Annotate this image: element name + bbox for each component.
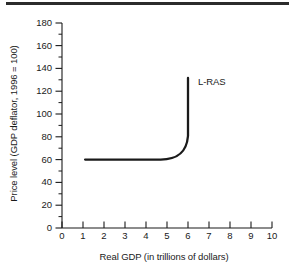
- ytick-label-80: 80: [22, 132, 52, 142]
- xtick-label-1: 1: [73, 231, 93, 241]
- xtick-label-8: 8: [220, 231, 240, 241]
- ytick-label-100: 100: [22, 109, 52, 119]
- xtick-label-4: 4: [136, 231, 156, 241]
- xtick-label-10: 10: [262, 231, 282, 241]
- figure-container: 180 160 140 120 100 80 60 40 20 0 0 1 2 …: [0, 0, 295, 269]
- ytick-label-0: 0: [22, 223, 52, 233]
- ytick-label-180: 180: [22, 18, 52, 28]
- xtick-label-3: 3: [115, 231, 135, 241]
- y-axis-title: Price level (GDP deflator, 1996 = 100): [8, 19, 19, 229]
- xtick-label-7: 7: [199, 231, 219, 241]
- ytick-label-120: 120: [22, 86, 52, 96]
- ytick-label-60: 60: [22, 155, 52, 165]
- lras-series-label: L-RAS: [198, 76, 225, 87]
- xtick-label-6: 6: [178, 231, 198, 241]
- ytick-label-140: 140: [22, 63, 52, 73]
- x-axis-title: Real GDP (in trillions of dollars): [44, 251, 284, 262]
- xtick-label-9: 9: [241, 231, 261, 241]
- ytick-label-40: 40: [22, 177, 52, 187]
- xtick-label-0: 0: [52, 231, 72, 241]
- xtick-label-5: 5: [157, 231, 177, 241]
- chart-canvas: 180 160 140 120 100 80 60 40 20 0 0 1 2 …: [0, 0, 295, 269]
- xtick-label-2: 2: [94, 231, 114, 241]
- x-ticks: [62, 222, 272, 229]
- ytick-label-160: 160: [22, 41, 52, 51]
- ytick-label-20: 20: [22, 200, 52, 210]
- lras-curve: [85, 78, 188, 160]
